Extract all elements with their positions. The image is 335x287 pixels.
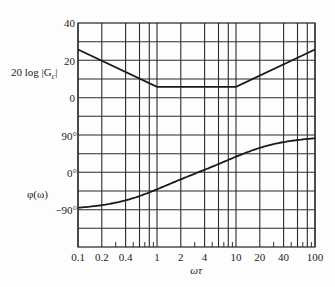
x-tick-label: 40 [278,251,290,263]
magnitude-tick-label: 0 [70,92,76,104]
x-tick-label: 100 [307,251,324,263]
phase-axis-label: φ(ω) [27,188,48,201]
magnitude-tick-label: 40 [64,17,76,29]
y-tick-labels: 4020090°0°−90° [55,17,77,216]
horizontal-gridlines [78,42,315,229]
x-tick-label: 10 [231,251,243,263]
magnitude-tick-label: 20 [64,55,76,67]
phase-tick-label: 0° [67,167,77,179]
phase-tick-label: 90° [62,130,77,142]
x-axis-label: ωτ [190,264,203,276]
x-tick-label: 0.2 [95,251,109,263]
x-tick-label: 2 [178,251,184,263]
x-tick-label: 0.4 [119,251,133,263]
x-tick-label: 20 [254,251,266,263]
x-tick-labels: 0.10.20.4124102040100 [71,251,324,263]
phase-tick-label: −90° [55,204,77,216]
magnitude-curve [78,50,315,87]
x-tick-label: 1 [154,251,160,263]
bode-plot: 0.10.20.4124102040100 4020090°0°−90° 20 … [0,0,335,287]
x-tick-label: 0.1 [71,251,85,263]
x-tick-label: 4 [202,251,208,263]
magnitude-axis-label: 20 log |Gc| [11,66,57,81]
phase-curve [78,138,315,207]
x-minor-ticks [116,242,312,247]
